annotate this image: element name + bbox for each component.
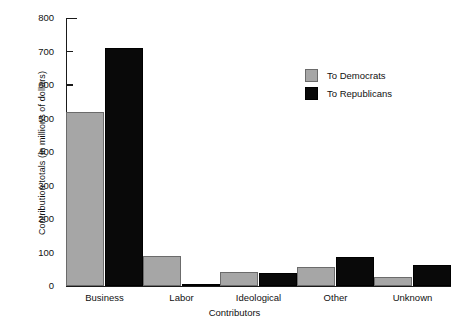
y-axis-tick-label: 700 [14, 47, 54, 57]
y-axis-tick-label: 600 [14, 80, 54, 90]
bar-unknown-republicans [413, 265, 451, 286]
y-axis-tick-label: 300 [14, 181, 54, 191]
y-axis-top-stub [66, 18, 77, 19]
legend-swatch-republicans-icon [305, 87, 318, 100]
y-axis-tick-label: 800 [14, 13, 54, 23]
y-axis-tick [66, 51, 73, 52]
bar-labor-republicans [182, 284, 220, 286]
x-axis-line [66, 286, 451, 287]
legend-item-democrats: To Democrats [305, 66, 392, 84]
y-axis-tick [66, 84, 73, 85]
bar-business-democrats [66, 112, 104, 286]
y-axis-tick-label: 100 [14, 248, 54, 258]
legend-label-democrats: To Democrats [327, 70, 386, 81]
bar-ideological-democrats [220, 272, 258, 286]
bar-labor-democrats [143, 256, 181, 286]
bar-other-democrats [297, 267, 335, 286]
bar-unknown-democrats [374, 277, 412, 286]
y-axis-tick-label: 200 [14, 214, 54, 224]
bar-ideological-republicans [259, 273, 297, 286]
legend-item-republicans: To Republicans [305, 84, 392, 102]
y-axis-tick-label: 0 [14, 281, 54, 291]
legend-swatch-democrats-icon [305, 69, 318, 82]
legend-label-republicans: To Republicans [327, 88, 392, 99]
legend: To Democrats To Republicans [305, 66, 392, 102]
x-axis-title: Contributors [0, 307, 469, 318]
bar-chart: Contribution totals (in millions of doll… [0, 0, 469, 335]
y-axis-tick-label: 500 [14, 114, 54, 124]
bar-business-republicans [105, 48, 143, 286]
y-axis-tick-label: 400 [14, 147, 54, 157]
bar-other-republicans [336, 257, 374, 286]
x-axis-label-unknown: Unknown [353, 292, 469, 303]
